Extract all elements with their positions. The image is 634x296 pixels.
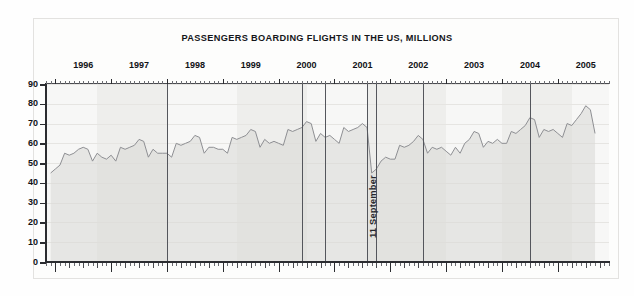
x-tick-mark bbox=[488, 263, 489, 268]
x-tick-mark bbox=[204, 263, 205, 266]
x-tick-mark-top bbox=[227, 81, 228, 84]
x-tick-mark bbox=[525, 263, 526, 266]
x-tick-mark-top bbox=[330, 81, 331, 84]
x-tick-mark-top bbox=[404, 81, 405, 84]
x-axis-year-label: 1999 bbox=[229, 60, 273, 70]
vertical-marker-line bbox=[325, 84, 326, 266]
x-tick-mark-top bbox=[288, 81, 289, 84]
x-tick-mark-top bbox=[181, 81, 182, 84]
x-tick-mark-top bbox=[279, 79, 280, 84]
x-tick-mark bbox=[562, 263, 563, 266]
x-tick-mark bbox=[609, 263, 610, 266]
x-tick-mark bbox=[376, 263, 377, 268]
x-tick-mark-top bbox=[223, 79, 224, 84]
x-tick-mark-top bbox=[139, 81, 140, 84]
x-tick-mark-top bbox=[428, 81, 429, 84]
x-tick-mark-top bbox=[493, 81, 494, 84]
chart-figure: PASSENGERS BOARDING FLIGHTS IN THE US, M… bbox=[0, 0, 634, 296]
x-tick-mark-top bbox=[167, 79, 168, 84]
x-tick-mark-top bbox=[455, 81, 456, 84]
x-tick-mark-top bbox=[241, 81, 242, 84]
x-tick-mark bbox=[167, 263, 168, 272]
y-tick-mark bbox=[40, 124, 45, 126]
x-tick-mark bbox=[572, 263, 573, 268]
x-tick-mark-top bbox=[251, 81, 252, 84]
y-tick-mark bbox=[40, 143, 45, 145]
x-tick-mark-top bbox=[418, 81, 419, 84]
vertical-marker-line bbox=[530, 84, 531, 266]
x-tick-mark bbox=[125, 263, 126, 268]
x-tick-mark bbox=[423, 263, 424, 266]
series-area-fill bbox=[51, 106, 595, 262]
x-tick-mark bbox=[432, 263, 433, 268]
x-tick-mark bbox=[223, 263, 224, 272]
x-tick-mark-top bbox=[353, 81, 354, 84]
x-tick-mark bbox=[214, 263, 215, 266]
x-tick-mark-top bbox=[102, 81, 103, 84]
x-tick-mark-top bbox=[260, 81, 261, 84]
x-tick-mark-top bbox=[539, 81, 540, 84]
x-tick-mark bbox=[241, 263, 242, 266]
vertical-marker-line bbox=[167, 84, 168, 266]
x-tick-mark bbox=[418, 263, 419, 268]
x-tick-mark-top bbox=[567, 81, 568, 84]
y-tick-label: 20 bbox=[12, 218, 38, 227]
x-tick-mark bbox=[116, 263, 117, 266]
x-tick-mark bbox=[507, 263, 508, 266]
x-tick-mark-top bbox=[51, 81, 52, 84]
x-tick-mark-top bbox=[400, 81, 401, 84]
x-tick-mark-top bbox=[148, 81, 149, 84]
x-tick-mark-top bbox=[321, 81, 322, 84]
x-tick-mark-top bbox=[521, 81, 522, 84]
x-tick-mark-top bbox=[46, 81, 47, 84]
x-tick-mark bbox=[269, 263, 270, 266]
x-tick-mark bbox=[414, 263, 415, 266]
x-tick-mark bbox=[279, 263, 280, 272]
x-tick-mark-top bbox=[525, 81, 526, 84]
x-tick-mark-top bbox=[237, 81, 238, 84]
x-tick-mark-top bbox=[255, 81, 256, 84]
x-tick-mark bbox=[581, 263, 582, 266]
x-tick-mark bbox=[567, 263, 568, 266]
x-tick-mark-top bbox=[460, 81, 461, 84]
x-axis-year-label: 2001 bbox=[340, 60, 384, 70]
x-tick-mark-top bbox=[334, 79, 335, 84]
x-tick-mark bbox=[339, 263, 340, 266]
x-tick-mark-top bbox=[209, 81, 210, 84]
x-tick-mark bbox=[493, 263, 494, 266]
x-tick-mark-top bbox=[265, 81, 266, 84]
y-tick-mark bbox=[40, 84, 45, 86]
x-tick-mark-top bbox=[74, 81, 75, 84]
x-tick-mark bbox=[283, 263, 284, 266]
x-tick-mark bbox=[386, 263, 387, 266]
vertical-marker-line bbox=[302, 84, 303, 266]
x-tick-mark bbox=[535, 263, 536, 266]
x-tick-mark bbox=[381, 263, 382, 266]
x-tick-mark-top bbox=[200, 81, 201, 84]
x-tick-mark bbox=[549, 263, 550, 266]
x-tick-mark-top bbox=[293, 81, 294, 84]
x-tick-mark bbox=[321, 263, 322, 268]
y-tick-label: 10 bbox=[12, 238, 38, 247]
x-tick-mark bbox=[227, 263, 228, 266]
x-tick-mark bbox=[209, 263, 210, 268]
x-tick-mark-top bbox=[488, 81, 489, 84]
x-tick-mark-top bbox=[553, 81, 554, 84]
x-tick-mark bbox=[79, 263, 80, 266]
y-tick-mark bbox=[40, 222, 45, 224]
x-tick-mark-top bbox=[469, 81, 470, 84]
x-tick-mark-top bbox=[246, 81, 247, 84]
x-tick-mark-top bbox=[535, 81, 536, 84]
y-tick-label: 60 bbox=[12, 139, 38, 148]
x-tick-mark-top bbox=[106, 81, 107, 84]
x-axis-year-label: 2002 bbox=[396, 60, 440, 70]
x-tick-mark bbox=[307, 263, 308, 268]
x-tick-mark-top bbox=[274, 81, 275, 84]
x-tick-mark bbox=[446, 263, 447, 272]
annotation-11-september: 11 September bbox=[368, 175, 378, 238]
x-tick-mark-top bbox=[507, 81, 508, 84]
y-tick-mark bbox=[40, 203, 45, 205]
x-tick-mark bbox=[232, 263, 233, 266]
x-tick-mark-top bbox=[586, 81, 587, 84]
x-tick-mark-top bbox=[339, 81, 340, 84]
